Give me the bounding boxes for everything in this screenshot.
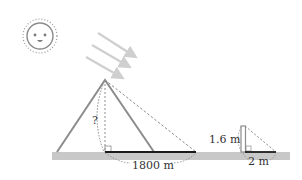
pyramid-shadow-label: 1800 m: [132, 159, 174, 172]
pyramid: [57, 80, 196, 163]
pole-height-label: 1.6 m: [209, 133, 241, 146]
sun-icon: [23, 19, 57, 53]
pole-shadow-label: 2 m: [248, 155, 269, 168]
shadow-diagram: ? 1800 m 1.6 m 2 m: [0, 0, 302, 180]
sun-rays: [86, 33, 134, 77]
pyramid-height-label: ?: [92, 114, 98, 127]
